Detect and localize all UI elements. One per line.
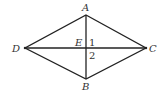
label-e: E <box>74 37 83 48</box>
diagram-canvas: A B C D E 1 2 <box>0 0 166 93</box>
label-a: A <box>81 2 89 13</box>
rhombus-diagram: A B C D E 1 2 <box>0 0 166 93</box>
label-c: C <box>149 43 157 54</box>
angle-label-1: 1 <box>89 37 95 48</box>
label-b: B <box>81 81 89 92</box>
label-d: D <box>11 43 20 54</box>
angle-label-2: 2 <box>89 50 95 61</box>
vertex-c-dot <box>145 47 147 49</box>
vertex-d-dot <box>24 47 26 49</box>
